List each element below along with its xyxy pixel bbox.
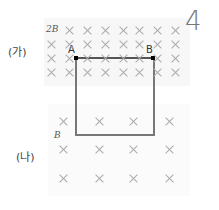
field-into-page-icon bbox=[119, 68, 128, 77]
field-into-page-icon bbox=[83, 40, 92, 49]
field-into-page-icon bbox=[153, 40, 162, 49]
field-into-page-icon bbox=[95, 145, 104, 154]
field-into-page-icon bbox=[65, 40, 74, 49]
panel-label-ga: (가) bbox=[8, 43, 27, 59]
field-into-page-icon bbox=[83, 68, 92, 77]
panel-label-na: (나) bbox=[16, 148, 35, 164]
field-into-page-icon bbox=[119, 54, 128, 63]
field-into-page-icon bbox=[119, 26, 128, 35]
field-into-page-icon bbox=[95, 117, 104, 126]
field-into-page-icon bbox=[101, 68, 110, 77]
field-into-page-icon bbox=[171, 54, 180, 63]
field-into-page-icon bbox=[171, 68, 180, 77]
field-into-page-icon bbox=[153, 54, 162, 63]
field-into-page-icon bbox=[101, 54, 110, 63]
field-into-page-icon bbox=[59, 117, 68, 126]
problem-number: 4 bbox=[185, 6, 202, 36]
field-into-page-icon bbox=[153, 68, 162, 77]
field-into-page-icon bbox=[59, 145, 68, 154]
point-a-marker bbox=[74, 56, 78, 60]
field-into-page-icon bbox=[101, 26, 110, 35]
field-into-page-icon bbox=[47, 54, 56, 63]
field-strength-label-b: B bbox=[54, 130, 61, 140]
field-into-page-icon bbox=[59, 174, 68, 183]
field-into-page-icon bbox=[135, 40, 144, 49]
field-into-page-icon bbox=[135, 26, 144, 35]
field-into-page-icon bbox=[165, 145, 174, 154]
field-into-page-icon bbox=[83, 26, 92, 35]
field-into-page-icon bbox=[101, 40, 110, 49]
field-into-page-icon bbox=[65, 26, 74, 35]
field-into-page-icon bbox=[119, 40, 128, 49]
field-into-page-icon bbox=[129, 174, 138, 183]
field-into-page-icon bbox=[135, 68, 144, 77]
field-into-page-icon bbox=[83, 54, 92, 63]
field-into-page-icon bbox=[95, 174, 104, 183]
field-strength-label-2b: 2B bbox=[46, 24, 58, 34]
field-into-page-icon bbox=[47, 68, 56, 77]
field-into-page-icon bbox=[135, 54, 144, 63]
field-into-page-icon bbox=[153, 26, 162, 35]
field-into-page-icon bbox=[171, 26, 180, 35]
field-into-page-icon bbox=[47, 40, 56, 49]
field-into-page-icon bbox=[65, 54, 74, 63]
field-into-page-icon bbox=[165, 117, 174, 126]
field-into-page-icon bbox=[129, 145, 138, 154]
field-into-page-icon bbox=[65, 68, 74, 77]
field-into-page-icon bbox=[129, 117, 138, 126]
field-into-page-icon bbox=[165, 174, 174, 183]
field-into-page-icon bbox=[171, 40, 180, 49]
